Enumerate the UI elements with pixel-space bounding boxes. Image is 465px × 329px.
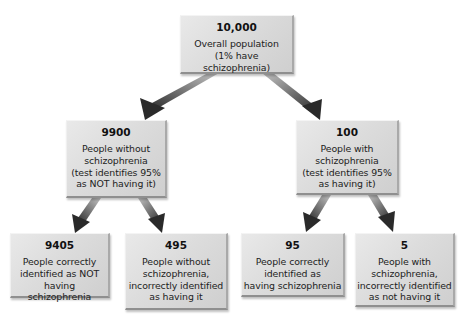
- arrow-with-to-false-negative-icon: [368, 195, 395, 232]
- node-overall-population: 10,000 Overall population (1% have schiz…: [180, 15, 294, 74]
- node-true-positive: 95 People correctly identified as having…: [241, 233, 345, 297]
- node-count: 5: [356, 239, 453, 252]
- node-count: 495: [126, 239, 226, 252]
- node-false-negative: 5 People with schizophrenia, incorrectly…: [355, 233, 455, 307]
- arrow-without-to-false-positive-icon: [138, 198, 165, 233]
- node-without-schizophrenia: 9900 People without schizophrenia (test …: [66, 120, 167, 198]
- node-with-schizophrenia: 100 People with schizophrenia (test iden…: [296, 120, 399, 195]
- node-description: People without schizophrenia (test ident…: [67, 143, 165, 190]
- node-count: 9405: [11, 239, 108, 252]
- arrow-without-to-correct-negative-icon: [72, 198, 101, 233]
- arrow-root-to-without-icon: [140, 73, 219, 120]
- node-description: Overall population (1% have schizophreni…: [181, 38, 292, 73]
- node-true-negative: 9405 People correctly identified as NOT …: [10, 233, 110, 298]
- node-description: People without schizophrenia, incorrectl…: [126, 256, 226, 303]
- node-count: 10,000: [181, 21, 292, 34]
- node-count: 95: [242, 239, 343, 252]
- node-description: People correctly identified as NOT havin…: [11, 256, 108, 303]
- node-count: 9900: [67, 126, 165, 139]
- node-description: People correctly identified as having sc…: [242, 256, 343, 291]
- node-false-positive: 495 People without schizophrenia, incorr…: [125, 233, 228, 310]
- arrow-root-to-with-icon: [262, 73, 322, 120]
- probability-tree-diagram: 10,000 Overall population (1% have schiz…: [0, 0, 465, 329]
- node-description: People with schizophrenia, incorrectly i…: [356, 256, 453, 303]
- node-count: 100: [297, 126, 397, 139]
- node-description: People with schizophrenia (test identifi…: [297, 143, 397, 190]
- arrow-with-to-correct-positive-icon: [303, 195, 331, 232]
